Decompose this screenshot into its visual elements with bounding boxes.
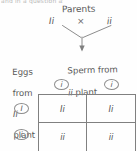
parents-label: Parents <box>62 5 96 15</box>
clipped-page-text: and in a question asking <box>1 0 63 4</box>
punnett-cell-r2c2: ii <box>87 123 135 151</box>
punnett-grid: Ii Ii ii ii <box>38 94 136 151</box>
punnett-cell-r2c1: ii <box>39 123 87 151</box>
punnett-cell-r1c1: Ii <box>39 95 87 123</box>
parent-left-genotype: Ii <box>49 17 54 27</box>
parent-right-genotype: ii <box>107 17 113 27</box>
row-header-gamete-2: i <box>14 129 29 140</box>
eggs-caption-line2: from <box>13 88 33 98</box>
punnett-square-figure: and in a question asking Parents Ii × ii… <box>0 0 137 151</box>
cross-symbol: × <box>77 17 85 26</box>
sperm-caption-line1: Sperm from <box>67 64 117 75</box>
column-header-gamete-1: i <box>54 79 69 90</box>
row-header-gamete-1: I <box>14 103 29 114</box>
punnett-cell-r1c2: Ii <box>87 95 135 123</box>
eggs-caption-line1: Eggs <box>12 67 33 77</box>
column-header-gamete-2: i <box>104 79 119 90</box>
